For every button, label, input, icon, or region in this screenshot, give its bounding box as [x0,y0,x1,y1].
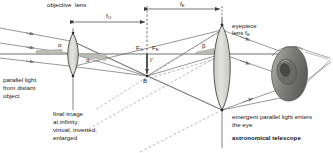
focal-length-objective-label: fO [106,12,111,21]
final-image-label-line2: at infinity: [53,118,79,125]
eyepiece-lens [214,18,231,148]
emergent-light-label-line1: emergent parallel light enters [232,113,312,120]
angle-alpha-refracted-wedge [80,54,106,60]
incoming-parallel-rays [0,28,73,67]
angle-alpha-refracted-label: α [86,56,90,63]
focal-point-objective-label: FO [136,44,143,53]
focal-point-eyepiece-label: FE [152,44,159,53]
emergent-light-label-line2: the eye [232,121,252,128]
parallel-light-label-line3: object [3,92,20,99]
angle-beta-wedge [196,49,214,54]
angle-alpha-incident-wedge [36,49,62,54]
image-point-b-label: B [143,77,147,84]
final-image-label-line1: final image [53,110,83,117]
angle-alpha-incident-label: α [58,41,62,48]
final-image-label-line4: enlarged [53,134,77,141]
diagram-graphics [0,0,333,153]
parallel-light-label-line1: parallel light [3,76,36,83]
angle-wedges [36,49,214,61]
objective-lens-label: objective lens [47,1,86,8]
intermediate-image-label: I' [150,56,153,63]
telescope-title-label: astronomical telescope [232,134,301,141]
angle-beta-label: β [202,42,206,49]
objective-lens [68,28,79,110]
focal-length-eyepiece-label: fE [180,0,185,9]
telescope-ray-diagram: objective lens fO fE eyepiece lens fE FO… [0,0,333,153]
parallel-light-label-line2: from distant [3,84,35,91]
eye-illustration [272,46,331,101]
final-image-label-line3: virtual, inverted, [53,126,97,133]
eyepiece-lens-label-line2: lens fE [232,29,250,38]
